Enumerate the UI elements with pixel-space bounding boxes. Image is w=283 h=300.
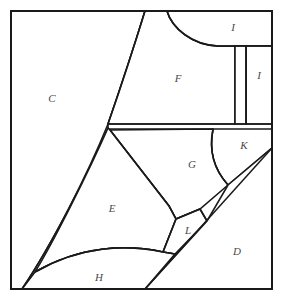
region-f-right-column — [235, 46, 246, 124]
region-partition-svg: C F I I K G E L D H — [0, 0, 283, 300]
diagram-canvas: C F I I K G E L D H — [0, 0, 283, 300]
label-f: F — [174, 72, 182, 84]
label-g: G — [188, 158, 196, 170]
label-h: H — [94, 271, 104, 283]
label-d: D — [232, 245, 241, 257]
label-c: C — [48, 92, 56, 104]
label-e: E — [108, 202, 116, 214]
region-i-right — [246, 46, 272, 124]
label-k: K — [239, 139, 248, 151]
label-l: L — [184, 224, 191, 236]
